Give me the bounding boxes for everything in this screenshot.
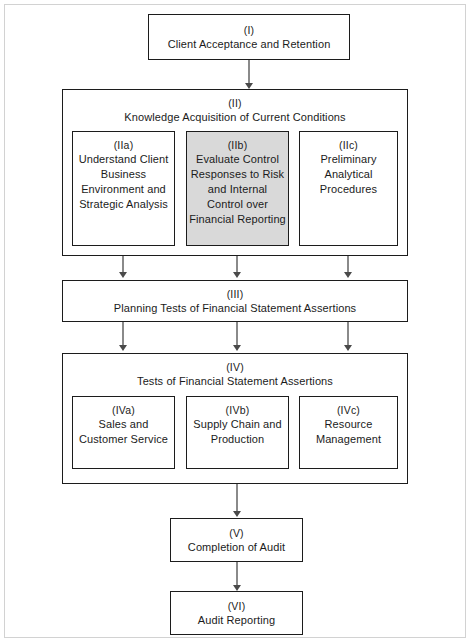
node-iva-sales-and-customer-service[interactable]: (IVa) Sales and Customer Service bbox=[72, 396, 175, 469]
node-iib-caption: Evaluate Control Responses to Risk and I… bbox=[189, 152, 286, 227]
node-vi-caption: Audit Reporting bbox=[171, 613, 302, 628]
arrowhead-iii-to-ivc bbox=[344, 345, 352, 351]
arrowhead-iii-to-ivb bbox=[233, 345, 241, 351]
node-ivb-supply-chain-and-production[interactable]: (IVb) Supply Chain and Production bbox=[186, 396, 289, 469]
node-iic-preliminary-analytical[interactable]: (IIc) Preliminary Analytical Procedures bbox=[299, 131, 398, 246]
node-iv-caption: Tests of Financial Statement Assertions bbox=[63, 374, 407, 389]
node-iib-roman: (IIb) bbox=[189, 138, 286, 152]
node-ivc-roman: (IVc) bbox=[302, 403, 395, 417]
node-iva-caption: Sales and Customer Service bbox=[75, 417, 172, 447]
node-iia-caption: Understand Client Business Environment a… bbox=[75, 152, 172, 212]
arrowhead-iv-to-v bbox=[233, 511, 241, 517]
node-iva-roman: (IVa) bbox=[75, 403, 172, 417]
node-iia-understand-client-business[interactable]: (IIa) Understand Client Business Environ… bbox=[72, 131, 175, 246]
node-i-client-acceptance[interactable]: (I) Client Acceptance and Retention bbox=[148, 14, 350, 60]
arrowhead-iib-to-iii bbox=[233, 272, 241, 278]
node-ivc-resource-management[interactable]: (IVc) Resource Management bbox=[299, 396, 398, 469]
node-ii-caption: Knowledge Acquisition of Current Conditi… bbox=[63, 110, 407, 125]
node-i-roman: (I) bbox=[149, 23, 349, 37]
node-ivb-caption: Supply Chain and Production bbox=[189, 417, 286, 447]
flowchart-canvas: (I) Client Acceptance and Retention (II)… bbox=[0, 0, 470, 642]
node-i-caption: Client Acceptance and Retention bbox=[149, 37, 349, 52]
node-ivc-caption: Resource Management bbox=[302, 417, 395, 447]
node-iic-caption: Preliminary Analytical Procedures bbox=[302, 152, 395, 197]
node-v-completion-of-audit[interactable]: (V) Completion of Audit bbox=[170, 518, 303, 562]
node-iib-evaluate-control-responses[interactable]: (IIb) Evaluate Control Responses to Risk… bbox=[186, 131, 289, 246]
arrowhead-iic-to-iii bbox=[344, 272, 352, 278]
node-iii-planning-tests[interactable]: (III) Planning Tests of Financial Statem… bbox=[62, 280, 408, 322]
node-v-caption: Completion of Audit bbox=[171, 540, 302, 555]
node-iia-roman: (IIa) bbox=[75, 138, 172, 152]
node-ivb-roman: (IVb) bbox=[189, 403, 286, 417]
node-iv-roman: (IV) bbox=[63, 360, 407, 374]
arrowhead-iii-to-iva bbox=[119, 345, 127, 351]
connector-iv-to-v bbox=[236, 484, 237, 514]
node-vi-roman: (VI) bbox=[171, 599, 302, 613]
node-iii-roman: (III) bbox=[63, 287, 407, 301]
node-v-roman: (V) bbox=[171, 526, 302, 540]
node-vi-audit-reporting[interactable]: (VI) Audit Reporting bbox=[170, 591, 303, 635]
node-ii-roman: (II) bbox=[63, 96, 407, 110]
node-iic-roman: (IIc) bbox=[302, 138, 395, 152]
arrowhead-iia-to-iii bbox=[119, 272, 127, 278]
node-iii-caption: Planning Tests of Financial Statement As… bbox=[63, 301, 407, 316]
